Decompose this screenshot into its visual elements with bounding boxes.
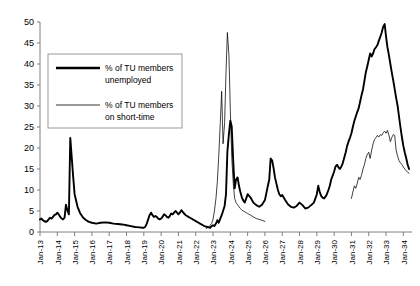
x-tick-label: Jan-30 — [330, 239, 339, 264]
x-tick-label: Jan-21 — [175, 239, 184, 264]
chart-container: 05101520253035404550 Jan-13Jan-14Jan-15J… — [0, 0, 420, 286]
y-tick-label: 20 — [24, 143, 34, 153]
y-tick-label: 25 — [24, 122, 34, 132]
y-tick-label: 5 — [29, 206, 34, 216]
y-tick-label: 45 — [24, 38, 34, 48]
y-tick-label: 35 — [24, 80, 34, 90]
line-chart: 05101520253035404550 Jan-13Jan-14Jan-15J… — [0, 0, 420, 286]
x-axis: Jan-13Jan-14Jan-15Jan-16Jan-17Jan-18Jan-… — [36, 232, 412, 264]
x-tick-label: Jan-32 — [365, 239, 374, 264]
x-tick-label: Jan-15 — [71, 239, 80, 264]
x-tick-label: Jan-19 — [140, 239, 149, 264]
x-tick-label: Jan-13 — [36, 239, 45, 264]
x-tick-label: Jan-24 — [227, 239, 236, 264]
x-tick-label: Jan-27 — [278, 239, 287, 264]
legend-label-line2: on short-time — [105, 112, 155, 122]
legend-label-line1: % of TU members — [105, 63, 173, 73]
chart-legend: % of TU membersunemployed% of TU members… — [48, 54, 182, 128]
y-tick-label: 15 — [24, 164, 34, 174]
y-tick-label: 50 — [24, 17, 34, 27]
x-tick-label: Jan-18 — [123, 239, 132, 264]
x-tick-label: Jan-26 — [261, 239, 270, 264]
x-tick-label: Jan-28 — [296, 239, 305, 264]
x-tick-label: Jan-29 — [313, 239, 322, 264]
series-line-short-time — [206, 33, 265, 229]
legend-label-line1: % of TU members — [105, 100, 173, 110]
legend-label-line2: unemployed — [105, 75, 152, 85]
y-tick-label: 10 — [24, 185, 34, 195]
x-tick-label: Jan-22 — [192, 239, 201, 264]
series-line-short-time — [351, 130, 409, 198]
y-tick-label: 30 — [24, 101, 34, 111]
y-axis: 05101520253035404550 — [24, 17, 40, 237]
x-tick-label: Jan-34 — [400, 239, 409, 264]
y-tick-label: 0 — [29, 227, 34, 237]
x-tick-label: Jan-16 — [88, 239, 97, 264]
x-tick-label: Jan-17 — [105, 239, 114, 264]
x-tick-label: Jan-23 — [209, 239, 218, 264]
x-tick-label: Jan-14 — [54, 239, 63, 264]
x-tick-label: Jan-33 — [382, 239, 391, 264]
x-tick-label: Jan-31 — [348, 239, 357, 264]
x-tick-label: Jan-20 — [157, 239, 166, 264]
x-tick-label: Jan-25 — [244, 239, 253, 264]
y-tick-label: 40 — [24, 59, 34, 69]
